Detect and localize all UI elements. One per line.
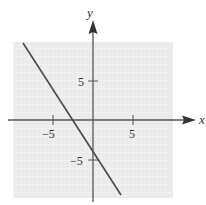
y-tick-label-neg5: −5 bbox=[70, 154, 83, 168]
coordinate-plane: x y −5 5 5 −5 bbox=[0, 0, 206, 205]
y-axis-arrow-icon bbox=[89, 20, 98, 34]
x-tick-label-5: 5 bbox=[129, 127, 135, 141]
x-axis-arrow-icon bbox=[182, 116, 196, 125]
x-axis-label: x bbox=[198, 112, 205, 127]
y-axis-label: y bbox=[85, 5, 93, 20]
x-tick-label-neg5: −5 bbox=[42, 127, 55, 141]
y-tick-label-5: 5 bbox=[78, 75, 84, 89]
